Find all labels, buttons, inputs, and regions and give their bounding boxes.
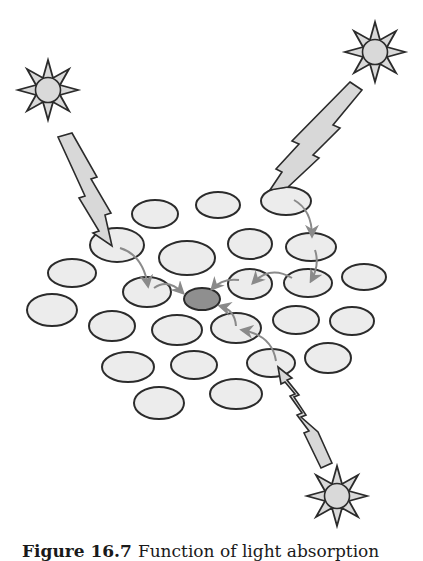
figure-number: Figure 16.7 xyxy=(22,541,132,561)
antenna-pigment xyxy=(211,313,261,343)
antenna-pigment xyxy=(284,269,332,297)
sun-icon xyxy=(307,466,367,526)
antenna-pigment xyxy=(247,349,295,377)
antenna-pigment xyxy=(196,192,240,218)
antenna-pigment xyxy=(102,352,154,382)
antenna-pigment xyxy=(132,200,178,228)
lightning-bolt-icon xyxy=(278,367,332,468)
sun-icon xyxy=(345,22,405,82)
antenna-pigment xyxy=(342,264,386,290)
antenna-pigment xyxy=(286,233,336,261)
antenna-pigment xyxy=(159,241,215,275)
antenna-pigment xyxy=(228,229,272,259)
antenna-pigment xyxy=(210,379,262,409)
reaction-center xyxy=(184,288,220,310)
antenna-pigment xyxy=(152,315,202,345)
antenna-pigment xyxy=(48,259,96,287)
antenna-pigment xyxy=(171,351,217,379)
antenna-pigment xyxy=(273,306,319,334)
lightning-bolt-icon xyxy=(58,133,112,246)
antenna-pigment xyxy=(330,307,374,335)
figure-caption: Figure 16.7Function of light absorption xyxy=(22,541,379,561)
figure-caption-text: Function of light absorption xyxy=(138,541,379,561)
antenna-pigment xyxy=(89,311,135,341)
antenna-pigment xyxy=(261,187,311,215)
antenna-pigment xyxy=(305,343,351,373)
antenna-pigment xyxy=(134,387,184,419)
antenna-pigment xyxy=(27,294,77,326)
lightning-bolt-icon xyxy=(270,82,362,190)
sun-icon xyxy=(18,60,78,120)
